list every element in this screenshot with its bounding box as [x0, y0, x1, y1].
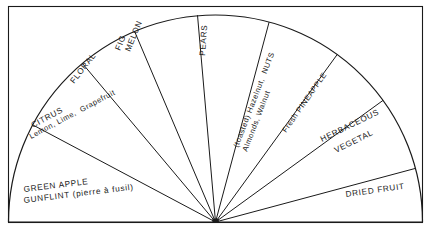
- sector-label-citrus-sub: Lemon, Lime, Grapefruit: [28, 88, 117, 141]
- figure-canvas: GREEN APPLE GUNFLINT (pierre à fusil) CI…: [0, 0, 430, 232]
- divider-3: [135, 31, 216, 222]
- sector-label-pears: PEARS: [198, 24, 209, 56]
- sector-label-floral: FLORAL: [68, 51, 97, 85]
- divider-1: [33, 125, 216, 222]
- aroma-half-wheel: GREEN APPLE GUNFLINT (pierre à fusil) CI…: [0, 0, 430, 232]
- wheel-vertex-hub: [212, 219, 218, 223]
- sector-label-pineapple: Fresh PINEAPPLE: [280, 71, 328, 135]
- divider-8: [216, 168, 416, 222]
- divider-2: [82, 63, 215, 222]
